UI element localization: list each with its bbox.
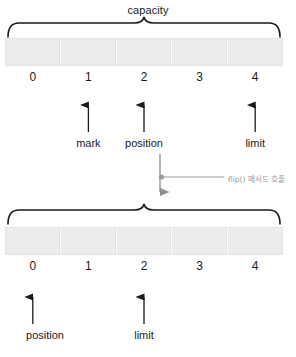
buffer-cell: [172, 39, 227, 65]
pointer-label-position: position: [125, 137, 163, 149]
index-label: 2: [116, 259, 172, 273]
buffer-cell: [6, 39, 61, 65]
pointer-label-mark: mark: [76, 137, 100, 149]
buffer-cell: [117, 228, 172, 254]
pointer-arrows-bottom: [5, 288, 283, 324]
buffer-row-bottom: [5, 227, 283, 255]
index-row-bottom: 0 1 2 3 4: [5, 259, 283, 273]
pointer-label-position: position: [26, 329, 64, 341]
pointer-labels-bottom: position limit: [5, 329, 283, 330]
pointer-arrows-top: [5, 96, 283, 132]
buffer-cell: [117, 39, 172, 65]
buffer-diagram: capacity 0 1 2 3 4 mark position limit: [0, 0, 296, 357]
index-label: 3: [172, 259, 228, 273]
buffer-cell: [228, 39, 282, 65]
index-label: 4: [227, 259, 283, 273]
index-label: 1: [61, 259, 117, 273]
capacity-bracket-top: [5, 16, 283, 38]
buffer-cell: [61, 39, 116, 65]
buffer-row-top: [5, 38, 283, 66]
pointer-label-limit: limit: [245, 137, 265, 149]
pointer-labels-top: mark position limit: [5, 137, 283, 138]
flip-callout-leader: [158, 172, 226, 182]
capacity-bracket-bottom: [5, 203, 283, 225]
flip-annotation-text: flip() 메서드 호출: [228, 173, 285, 184]
buffer-cell: [61, 228, 116, 254]
pointer-label-limit: limit: [134, 329, 154, 341]
index-label: 0: [5, 70, 61, 84]
buffer-cell: [228, 228, 282, 254]
index-row-top: 0 1 2 3 4: [5, 70, 283, 84]
index-label: 3: [172, 70, 228, 84]
index-label: 0: [5, 259, 61, 273]
buffer-cell: [6, 228, 61, 254]
index-label: 2: [116, 70, 172, 84]
buffer-cell: [172, 228, 227, 254]
capacity-label-top: capacity: [0, 4, 296, 16]
index-label: 1: [61, 70, 117, 84]
index-label: 4: [227, 70, 283, 84]
